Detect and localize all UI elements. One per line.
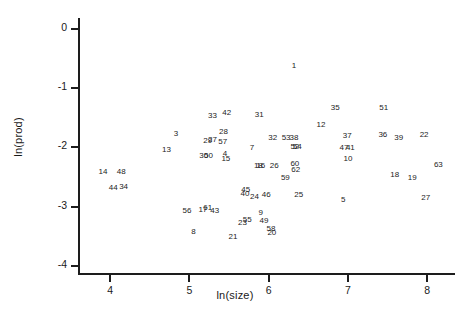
data-point-label: 12 <box>317 121 326 129</box>
data-point-label: 41 <box>346 144 355 152</box>
data-point-label: 26 <box>270 162 279 170</box>
data-point-label: 31 <box>255 111 264 119</box>
y-tick: -3 <box>71 206 78 208</box>
data-point-label: 44 <box>109 184 118 192</box>
y-tick-label: -4 <box>58 258 67 270</box>
y-tick-label: 0 <box>61 21 67 33</box>
data-point-label: 34 <box>119 183 128 191</box>
data-point-label: 8 <box>191 228 195 236</box>
data-point-label: 33 <box>208 112 217 120</box>
data-point-label: 27 <box>421 194 430 202</box>
data-point-label: 15 <box>221 155 230 163</box>
data-point-label: 1 <box>292 62 296 70</box>
y-tick-label: -2 <box>58 139 67 151</box>
data-point-label: 25 <box>294 191 303 199</box>
data-point-label: 27 <box>208 136 217 144</box>
data-point-label: 10 <box>344 155 353 163</box>
data-point-label: 23 <box>238 219 247 227</box>
y-axis-label: ln(prod) <box>12 97 24 177</box>
y-axis-spine <box>78 18 80 274</box>
x-axis-label: ln(size) <box>70 289 400 301</box>
data-point-label: 51 <box>379 104 388 112</box>
scatter-plot-figure: ln(prod) 0-1-2-3-4 45678 135513342311232… <box>0 0 457 310</box>
data-point-label: 5 <box>341 196 345 204</box>
data-point-label: 7 <box>250 144 254 152</box>
x-tick: 8 <box>426 275 428 282</box>
data-point-label: 48 <box>117 168 126 176</box>
data-point-label: 36 <box>378 131 387 139</box>
data-point-label: 62 <box>291 166 300 174</box>
data-point-label: 19 <box>408 174 417 182</box>
x-tick: 6 <box>268 275 270 282</box>
data-point-label: 28 <box>219 128 228 136</box>
data-point-label: 13 <box>162 146 171 154</box>
y-tick: 0 <box>71 28 78 30</box>
data-point-label: 20 <box>267 229 276 237</box>
data-point-label: 24 <box>250 193 259 201</box>
y-tick-label: -1 <box>58 80 67 92</box>
y-tick-label: -3 <box>58 199 67 211</box>
x-axis-spine <box>78 273 455 275</box>
data-point-label: 3 <box>174 130 178 138</box>
data-point-label: 54 <box>293 143 302 151</box>
data-point-label: 37 <box>343 132 352 140</box>
data-point-label: 56 <box>183 207 192 215</box>
y-tick: -4 <box>71 265 78 267</box>
data-point-label: 46 <box>262 191 271 199</box>
data-point-label: 21 <box>229 233 238 241</box>
data-point-label: 14 <box>99 168 108 176</box>
data-point-label: 42 <box>222 109 231 117</box>
data-point-label: 50 <box>204 152 213 160</box>
data-point-label: 39 <box>394 134 403 142</box>
data-point-label: 35 <box>331 104 340 112</box>
y-tick: -2 <box>71 146 78 148</box>
data-point-label: 16 <box>256 162 265 170</box>
x-tick: 4 <box>109 275 111 282</box>
data-point-label: 40 <box>240 190 249 198</box>
data-point-label: 43 <box>210 207 219 215</box>
x-tick: 5 <box>188 275 190 282</box>
data-point-label: 63 <box>434 161 443 169</box>
data-point-label: 18 <box>390 171 399 179</box>
x-tick-label: 8 <box>416 284 438 296</box>
data-point-label: 59 <box>281 174 290 182</box>
data-point-label: 22 <box>420 131 429 139</box>
data-point-label: 32 <box>268 134 277 142</box>
x-tick: 7 <box>347 275 349 282</box>
data-point-label: 57 <box>218 138 227 146</box>
y-tick: -1 <box>71 87 78 89</box>
